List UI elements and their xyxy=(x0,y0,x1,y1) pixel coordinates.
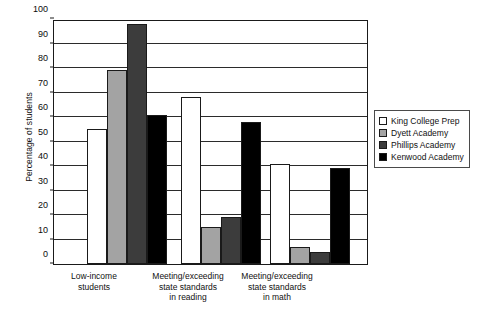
legend-label: Dyett Academy xyxy=(391,128,448,138)
legend-label: Phillips Academy xyxy=(391,140,455,150)
bar-chart: Percentage of students 01020304050607080… xyxy=(0,0,494,312)
x-axis-category-label: Meeting/exceedingstate standardsin math xyxy=(217,271,337,303)
legend-swatch-icon xyxy=(379,141,387,149)
x-axis-label-line: in math xyxy=(217,292,337,303)
legend-swatch-icon xyxy=(379,153,387,161)
bar xyxy=(310,252,330,264)
legend: King College PrepDyett AcademyPhillips A… xyxy=(374,110,470,168)
y-tick-label: 60 xyxy=(38,102,48,112)
bar xyxy=(127,24,147,264)
y-tick-label: 70 xyxy=(38,78,48,88)
bar xyxy=(330,168,350,264)
y-tick-label: 0 xyxy=(43,249,48,259)
legend-label: King College Prep xyxy=(391,116,460,126)
bar xyxy=(181,97,201,264)
y-tick-mark xyxy=(50,18,54,19)
plot-area: 0102030405060708090100 xyxy=(53,20,368,265)
bar xyxy=(270,164,290,264)
bars-layer xyxy=(54,21,367,264)
legend-item[interactable]: King College Prep xyxy=(379,115,464,127)
y-tick-label: 40 xyxy=(38,151,48,161)
legend-swatch-icon xyxy=(379,117,387,125)
bar xyxy=(147,115,167,264)
bar xyxy=(290,247,310,264)
y-tick-label: 20 xyxy=(38,200,48,210)
y-tick-label: 80 xyxy=(38,53,48,63)
legend-item[interactable]: Dyett Academy xyxy=(379,127,464,139)
x-axis-label-line: Meeting/exceeding xyxy=(217,271,337,282)
bar xyxy=(241,122,261,264)
x-axis-label-line: state standards xyxy=(217,282,337,293)
bar-group xyxy=(181,21,261,264)
bar-group xyxy=(270,21,350,264)
bar xyxy=(107,70,127,264)
legend-item[interactable]: Phillips Academy xyxy=(379,139,464,151)
y-tick-label: 100 xyxy=(33,4,48,14)
y-tick-label: 90 xyxy=(38,29,48,39)
legend-label: Kenwood Academy xyxy=(391,152,464,162)
y-tick-label: 50 xyxy=(38,127,48,137)
y-tick-label: 10 xyxy=(38,225,48,235)
bar xyxy=(221,217,241,264)
bar-group xyxy=(87,21,167,264)
bar xyxy=(201,227,221,264)
legend-swatch-icon xyxy=(379,129,387,137)
bar xyxy=(87,129,107,264)
legend-item[interactable]: Kenwood Academy xyxy=(379,151,464,163)
y-axis-title: Percentage of students xyxy=(24,52,34,222)
y-tick-label: 30 xyxy=(38,176,48,186)
